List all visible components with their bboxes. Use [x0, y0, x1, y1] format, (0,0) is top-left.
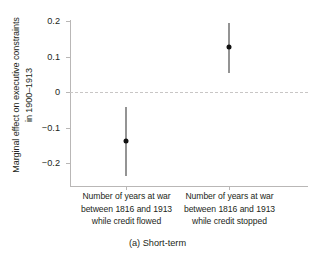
x-group-label-credit-flowed: Number of years at war between 1816 and …	[67, 190, 186, 228]
figure-short-term: Marginal effect on executive constraints…	[0, 0, 315, 260]
y-axis-title-line1: Marginal effect on executive constraints	[10, 17, 23, 173]
y-axis-line	[70, 20, 71, 186]
zero-reference-line	[70, 92, 308, 93]
y-tick-label-neg0.2: −0.2	[42, 158, 60, 168]
y-tick-0.2: 0.2	[66, 21, 70, 22]
x-group-label-credit-stopped: Number of years at war between 1816 and …	[170, 190, 289, 228]
x-axis-line	[70, 186, 308, 187]
y-axis-title: Marginal effect on executive constraints…	[0, 0, 46, 190]
x-group-1-line3: while credit flowed	[67, 215, 186, 228]
y-tick-label-0.2: 0.2	[47, 16, 60, 26]
y-tick-label-0.1: 0.1	[47, 52, 60, 62]
y-tick-label-neg0.1: −0.1	[42, 123, 60, 133]
y-axis-title-line2: in 1900–1913	[23, 17, 36, 173]
figure-caption: (a) Short-term	[0, 238, 315, 248]
x-group-1-line2: between 1816 and 1913	[67, 203, 186, 216]
x-group-1-line1: Number of years at war	[67, 190, 186, 203]
data-point-credit-stopped	[227, 45, 232, 50]
y-tick-neg0.1: −0.1	[66, 128, 70, 129]
x-group-2-line3: while credit stopped	[170, 215, 289, 228]
x-axis-labels: Number of years at war between 1816 and …	[70, 190, 308, 234]
x-group-2-line1: Number of years at war	[170, 190, 289, 203]
plot-area: 0.2 0.1 0 −0.1 −0.2	[70, 20, 308, 186]
data-point-credit-flowed	[124, 139, 129, 144]
y-tick-neg0.2: −0.2	[66, 163, 70, 164]
y-tick-label-0: 0	[55, 87, 60, 97]
x-group-2-line2: between 1816 and 1913	[170, 203, 289, 216]
y-tick-0.1: 0.1	[66, 57, 70, 58]
